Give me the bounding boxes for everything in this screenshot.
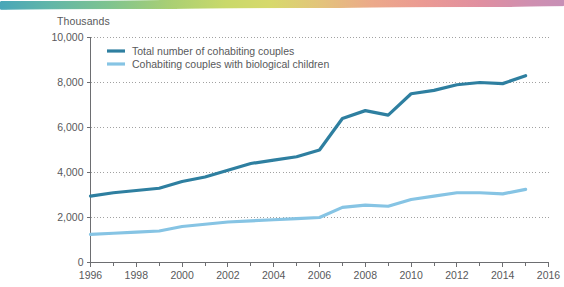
legend-label: Cohabiting couples with biological child… — [132, 58, 329, 70]
y-tick-label: 0 — [78, 256, 84, 268]
chart-figure: Thousands 02,0004,0006,0008,00010,000 19… — [0, 0, 564, 287]
y-tick-label: 10,000 — [51, 31, 83, 43]
series-line-with-children — [91, 189, 526, 234]
x-tick-label: 2016 — [537, 269, 561, 281]
x-tick-label: 2000 — [170, 269, 194, 281]
y-tick-labels-group: 02,0004,0006,0008,00010,000 — [51, 31, 83, 268]
x-tick-labels-group: 1996199820002002200420062008201020122014… — [79, 269, 561, 281]
y-tick-label: 4,000 — [57, 166, 83, 178]
chart-legend: Total number of cohabiting couplesCohabi… — [107, 45, 329, 70]
series-line-total — [91, 76, 526, 196]
x-tick-label: 2002 — [216, 269, 240, 281]
y-axis-group — [87, 38, 91, 263]
legend-label: Total number of cohabiting couples — [132, 45, 294, 57]
x-tick-label: 1998 — [125, 269, 149, 281]
x-axis-group — [91, 263, 549, 268]
y-tick-label: 2,000 — [57, 211, 83, 223]
x-tick-label: 1996 — [79, 269, 103, 281]
x-tick-label: 2010 — [399, 269, 423, 281]
x-tick-label: 2008 — [354, 269, 378, 281]
line-chart-plot: 02,0004,0006,0008,00010,000 199619982000… — [0, 0, 564, 287]
x-tick-label: 2006 — [308, 269, 332, 281]
x-tick-label: 2014 — [491, 269, 515, 281]
data-series-group — [91, 76, 526, 235]
x-tick-label: 2004 — [262, 269, 286, 281]
x-tick-label: 2012 — [445, 269, 469, 281]
y-tick-label: 8,000 — [57, 76, 83, 88]
y-tick-label: 6,000 — [57, 121, 83, 133]
